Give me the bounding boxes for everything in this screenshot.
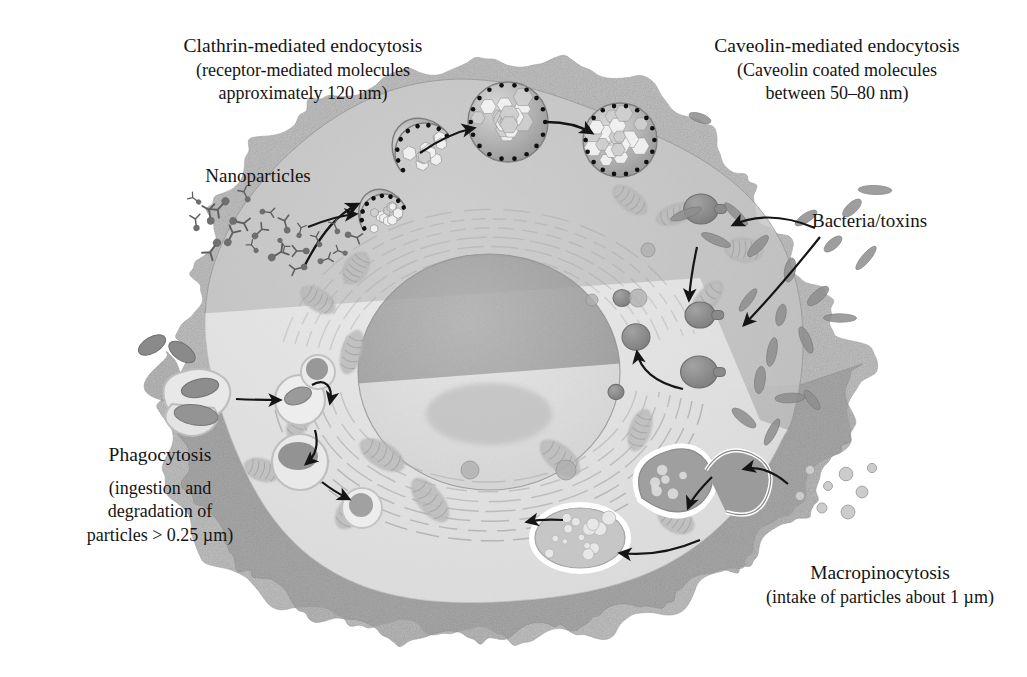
label-bacteria-title: Bacteria/toxins	[812, 208, 992, 233]
caveolar-vesicle	[613, 289, 631, 306]
residual-body	[342, 488, 382, 528]
caveolar-vesicle	[622, 324, 650, 351]
cytoplasmic-vesicle	[461, 461, 479, 479]
extracellular-particle	[805, 465, 814, 474]
early-phagolysosome	[301, 355, 335, 389]
label-macropinocytosis-line2: (intake of particles about 1 µm)	[735, 586, 1025, 610]
label-caveolin-title: Caveolin-mediated endocytosis	[672, 33, 1002, 59]
label-phagocytosis-line4: particles > 0.25 µm)	[52, 524, 268, 548]
cytoplasmic-vesicle	[629, 289, 647, 307]
label-macropinocytosis: Macropinocytosis (intake of particles ab…	[735, 560, 1025, 609]
nanoparticle	[190, 214, 202, 231]
label-caveolin-mediated-endocytosis: Caveolin-mediated endocytosis (Caveolin …	[672, 33, 1002, 106]
late-phagolysosome	[272, 434, 328, 490]
clathrin-coated-vesicle-1	[468, 82, 548, 162]
figure-canvas: Clathrin-mediated endocytosis (receptor-…	[0, 0, 1027, 677]
bacterium-rod	[858, 185, 892, 195]
label-macropinocytosis-title: Macropinocytosis	[735, 560, 1025, 586]
bacterium-rod	[822, 233, 845, 255]
extracellular-particle	[824, 482, 833, 491]
extracellular-particle	[856, 486, 868, 498]
extracellular-particle	[867, 463, 876, 472]
cytoplasmic-vesicle	[556, 460, 576, 480]
label-nanoparticles: Nanoparticles	[183, 163, 333, 188]
extracellular-particle	[839, 467, 853, 481]
extracellular-particle	[795, 491, 804, 500]
bacterium-rod	[853, 244, 879, 272]
label-nanoparticles-title: Nanoparticles	[183, 163, 333, 188]
label-bacteria-toxins: Bacteria/toxins	[812, 208, 992, 233]
nucleolus	[426, 383, 552, 445]
extracellular-particle	[841, 505, 855, 519]
label-clathrin-line3: approximately 120 nm)	[138, 82, 468, 106]
macropinosome	[532, 505, 628, 571]
label-clathrin-title: Clathrin-mediated endocytosis	[138, 33, 468, 59]
label-phagocytosis: Phagocytosis (ingestion and degradation …	[52, 442, 268, 548]
nanoparticle	[188, 192, 204, 207]
label-phagocytosis-line3: degradation of	[52, 500, 268, 524]
label-clathrin-mediated-endocytosis: Clathrin-mediated endocytosis (receptor-…	[138, 33, 468, 106]
bacterium-rod	[823, 314, 856, 323]
label-caveolin-line3: between 50–80 nm)	[672, 82, 1002, 106]
extracellular-particle	[817, 503, 827, 513]
label-caveolin-line2: (Caveolin coated molecules	[672, 59, 1002, 83]
label-phagocytosis-title: Phagocytosis	[52, 442, 268, 468]
label-phagocytosis-line2: (ingestion and	[52, 477, 268, 501]
macropinosome-closing	[636, 447, 715, 516]
label-clathrin-line2: (receptor-mediated molecules	[138, 59, 468, 83]
arrow-phago-1	[236, 399, 280, 400]
cytoplasmic-vesicle	[586, 294, 598, 306]
free-bacterium	[135, 331, 169, 360]
caveolar-vesicle	[608, 384, 624, 399]
clathrin-coated-vesicle-2	[583, 103, 657, 177]
cytoplasmic-vesicle	[641, 243, 655, 257]
